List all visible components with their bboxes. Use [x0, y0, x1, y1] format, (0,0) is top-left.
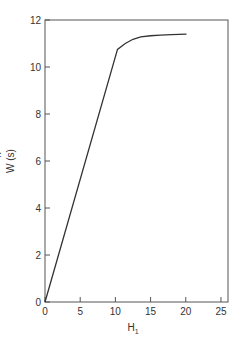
- data-line: [45, 34, 186, 302]
- x-tick-label: 5: [77, 306, 83, 317]
- y-tick-label: 2: [35, 250, 41, 261]
- y-tick-label: 8: [35, 109, 41, 120]
- x-tick-label: 15: [145, 306, 157, 317]
- x-tick-label: 10: [110, 306, 122, 317]
- y-axis-ticks: 024681012: [30, 15, 50, 308]
- x-tick-label: 0: [42, 306, 48, 317]
- y-tick-label: 6: [35, 156, 41, 167]
- x-tick-label: 20: [180, 306, 192, 317]
- y-axis-label: W (s) ^: [0, 149, 16, 173]
- y-tick-label: 12: [30, 15, 42, 26]
- x-axis-ticks: 0510152025: [42, 297, 227, 317]
- y-tick-label: 0: [35, 297, 41, 308]
- svg-text:^: ^: [0, 152, 7, 157]
- y-tick-label: 10: [30, 62, 42, 73]
- chart: 0510152025 024681012 H1 W (s) ^: [0, 0, 241, 348]
- x-axis-label: H1: [127, 322, 138, 335]
- y-tick-label: 4: [35, 203, 41, 214]
- svg-text:W (s): W (s): [5, 149, 16, 173]
- plot-frame: [45, 20, 228, 302]
- x-tick-label: 25: [215, 306, 227, 317]
